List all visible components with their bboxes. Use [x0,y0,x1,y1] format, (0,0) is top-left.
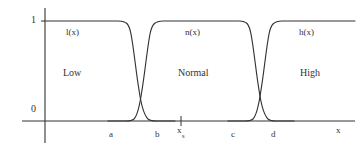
x-axis-label: x [336,126,341,135]
region-label-high: High [300,68,320,78]
curve-label-high: h(x) [299,28,314,37]
x-tick-label-b: b [155,130,160,139]
membership-function-chart: 1 0 l(x) n(x) h(x) Low Normal High a b c… [0,0,361,149]
x-tick-label-xs: xs [177,126,184,137]
curve-label-low: l(x) [66,28,79,37]
y-axis-tick-label-one: 1 [31,15,36,25]
y-axis-tick-label-zero: 0 [31,104,36,114]
x-tick-label-xs-subscript: s [182,132,185,139]
x-tick-label-xs-base: x [177,125,182,135]
x-tick-label-a: a [109,130,113,139]
curve-h [228,21,355,121]
region-label-normal: Normal [178,68,209,78]
x-tick-label-c: c [231,130,235,139]
region-label-low: Low [63,68,81,78]
curve-label-normal: n(x) [185,28,200,37]
x-tick-label-d: d [271,130,276,139]
